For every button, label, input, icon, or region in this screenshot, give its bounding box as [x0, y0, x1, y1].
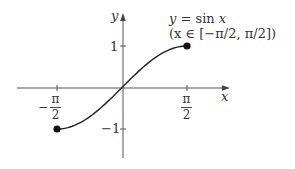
- denominator-2: 2: [183, 109, 191, 121]
- y-tick-label-neg1: −1: [101, 122, 120, 135]
- right-endpoint-dot: [183, 42, 190, 49]
- numerator-pi: π: [183, 93, 191, 105]
- x-tick-label-neg-pi-half: − π 2: [38, 93, 61, 121]
- eq-x: x: [219, 11, 226, 26]
- denominator-2: 2: [52, 109, 60, 121]
- minus-sign: −: [38, 100, 48, 114]
- left-endpoint-dot: [53, 125, 60, 132]
- x-tick-label-pi-half: π 2: [181, 93, 192, 121]
- eq-sin: = sin: [176, 11, 219, 26]
- y-axis-label: y: [111, 9, 118, 22]
- sine-graph-figure: y x 1 −1 − π 2 π 2 y = sin x (x ∈ [−π/2,…: [0, 0, 295, 169]
- x-axis-label: x: [221, 90, 228, 103]
- y-axis-arrow-icon: [120, 13, 126, 21]
- curve-equation-label: y = sin x: [169, 12, 226, 25]
- y-tick-label-1: 1: [110, 40, 118, 53]
- curve-domain-label: (x ∈ [−π/2, π/2]): [169, 27, 276, 40]
- numerator-pi: π: [52, 93, 60, 105]
